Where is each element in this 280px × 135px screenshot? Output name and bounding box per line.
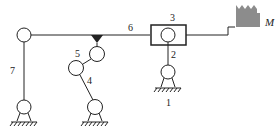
ground-7-leg-left [17, 113, 20, 121]
ground-4-leg-right [99, 113, 102, 121]
ground-7-hatch [10, 122, 37, 126]
label-motor: M [264, 16, 275, 28]
label-link-2: 2 [171, 49, 176, 60]
ground-1-leg-left [161, 78, 164, 87]
joint-ground-1 [161, 65, 175, 79]
label-link-7: 7 [10, 65, 15, 76]
joint-ground-4 [88, 100, 103, 115]
label-link-6: 6 [128, 22, 133, 33]
label-link-1: 1 [166, 97, 171, 108]
ground-4-hatch [81, 122, 108, 126]
label-link-5: 5 [75, 48, 80, 59]
pivot-triangle [91, 35, 103, 43]
mechanism-diagram: M 3 2 1 6 7 5 4 [0, 0, 280, 135]
joint-link-7-top [17, 28, 31, 42]
joint-link-4-top [69, 61, 84, 76]
joint-ground-7 [17, 100, 31, 114]
label-link-4: 4 [87, 75, 92, 86]
joint-link-5-top [90, 47, 105, 62]
ground-7-leg-right [28, 113, 31, 121]
ground-4-leg-left [88, 113, 91, 121]
motor-icon [236, 5, 260, 27]
ground-1-leg-right [172, 78, 175, 87]
label-link-3: 3 [170, 12, 175, 23]
joint-slider [161, 28, 175, 42]
ground-1-hatch [154, 88, 181, 92]
link-5 [83, 59, 91, 64]
